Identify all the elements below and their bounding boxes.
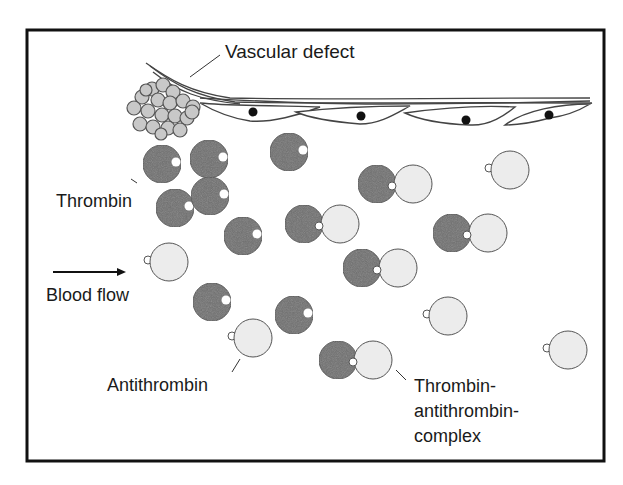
active-site <box>220 190 229 199</box>
thrombin-molecule <box>190 140 228 178</box>
thrombin-antithrombin-diagram <box>0 0 623 485</box>
label-thrombin: Thrombin <box>56 191 132 211</box>
bound-site <box>373 266 381 274</box>
thrombin-molecule <box>191 177 229 215</box>
bound-site <box>388 182 396 190</box>
active-site <box>222 296 231 305</box>
thrombin-molecule <box>193 283 231 321</box>
nucleus <box>357 112 366 121</box>
nucleus <box>249 108 258 117</box>
label-antithrombin: Antithrombin <box>107 375 208 395</box>
label-complex-line-3: complex <box>414 424 519 449</box>
label-vascular-defect: Vascular defect <box>225 42 355 62</box>
thrombin-molecule <box>224 217 262 255</box>
active-site <box>299 146 308 155</box>
label-blood-flow: Blood flow <box>46 285 129 305</box>
nucleus <box>545 111 554 120</box>
active-site <box>253 230 262 239</box>
label-thrombin-antithrombin-complex: Thrombin- antithrombin- complex <box>414 374 519 449</box>
bound-site <box>315 222 323 230</box>
thrombin-molecule <box>156 189 194 227</box>
bound-site <box>463 231 471 239</box>
thrombin-molecule <box>143 145 181 183</box>
label-complex-line-2: antithrombin- <box>414 399 519 424</box>
thrombin-molecule <box>270 133 308 171</box>
active-site <box>172 158 181 167</box>
active-site <box>219 153 228 162</box>
active-site <box>304 309 313 318</box>
bound-site <box>349 358 357 366</box>
nucleus <box>462 116 471 125</box>
thrombin-molecule <box>275 296 313 334</box>
label-complex-line-1: Thrombin- <box>414 374 519 399</box>
